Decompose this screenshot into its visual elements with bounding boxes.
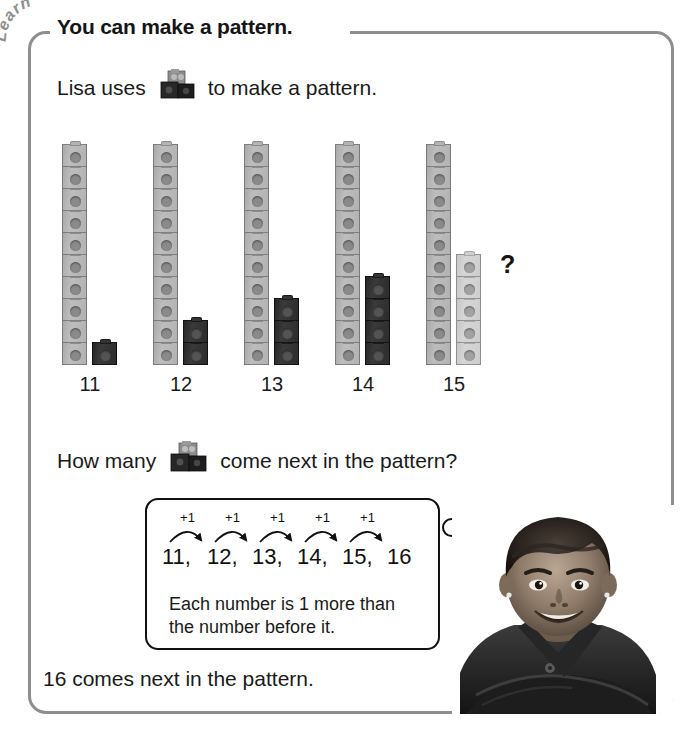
cube-gray xyxy=(244,188,269,211)
cube-gray xyxy=(335,166,360,189)
tower-ones-stack xyxy=(92,342,117,364)
tower-tens-stack xyxy=(244,144,269,364)
cube-gray xyxy=(62,166,87,189)
cube-gray xyxy=(62,144,87,167)
number-sequence-diagram: +1+1+1+1+1 11,12,13,14,15,16 xyxy=(160,507,420,569)
cube-gray xyxy=(62,254,87,277)
tower-tens-stack xyxy=(335,144,360,364)
cube-gray xyxy=(62,342,87,365)
cube-gray xyxy=(153,298,178,321)
cube-light xyxy=(456,298,481,321)
cube-gray xyxy=(153,144,178,167)
cube-gray xyxy=(244,342,269,365)
cube-gray xyxy=(335,188,360,211)
cube-gray xyxy=(244,144,269,167)
cube-gray xyxy=(426,342,451,365)
cube-gray xyxy=(335,276,360,299)
howmany-text-before: How many xyxy=(57,449,156,473)
tower-ones-stack xyxy=(183,320,208,364)
cube-dark xyxy=(365,342,390,365)
tower-label: 13 xyxy=(244,373,300,396)
closing-sentence: 16 comes next in the pattern. xyxy=(43,667,314,691)
intro-text-after: to make a pattern. xyxy=(208,76,377,100)
cube-tower xyxy=(62,144,117,364)
cube-gray xyxy=(335,254,360,277)
cube-gray xyxy=(62,232,87,255)
snap-cubes-icon xyxy=(155,69,199,106)
cube-gray xyxy=(62,320,87,343)
cube-gray xyxy=(153,232,178,255)
intro-sentence: Lisa uses to make a pattern. xyxy=(57,69,377,106)
plus-one-label: +1 xyxy=(225,510,240,525)
cube-tower xyxy=(426,144,481,364)
cube-gray xyxy=(426,320,451,343)
cube-gray xyxy=(244,320,269,343)
cube-gray xyxy=(426,232,451,255)
learn-tab-label: Learn xyxy=(0,0,34,42)
cube-gray xyxy=(153,254,178,277)
tower-ones-stack xyxy=(456,254,481,364)
cube-tower xyxy=(244,144,299,364)
tower-label: 12 xyxy=(153,373,209,396)
cube-light xyxy=(456,342,481,365)
sequence-number: 12, xyxy=(207,544,238,569)
plus-one-label: +1 xyxy=(315,510,330,525)
plus-one-arrow xyxy=(350,532,381,542)
cube-dark xyxy=(274,320,299,343)
tower-tens-stack xyxy=(426,144,451,364)
cube-gray xyxy=(62,210,87,233)
cube-gray xyxy=(153,188,178,211)
cube-gray xyxy=(62,298,87,321)
cube-dark xyxy=(274,298,299,321)
cube-gray xyxy=(153,276,178,299)
cube-gray xyxy=(426,254,451,277)
cube-gray xyxy=(244,276,269,299)
intro-text-before: Lisa uses xyxy=(57,76,146,100)
cube-gray xyxy=(335,144,360,167)
cube-gray xyxy=(244,232,269,255)
tower-label: 15 xyxy=(426,373,482,396)
tower-ones-stack xyxy=(274,298,299,364)
cube-dark xyxy=(274,342,299,365)
cube-gray xyxy=(153,342,178,365)
how-many-question: How many come next in the pattern? xyxy=(57,441,457,480)
sequence-number: 11, xyxy=(162,544,191,569)
cube-gray xyxy=(244,166,269,189)
tower-tens-stack xyxy=(153,144,178,364)
cube-gray xyxy=(426,188,451,211)
plus-one-label: +1 xyxy=(180,510,195,525)
cube-gray xyxy=(335,320,360,343)
plus-one-label: +1 xyxy=(360,510,375,525)
plus-one-label: +1 xyxy=(270,510,285,525)
student-photo xyxy=(452,505,674,714)
box-explanation-line-2: the number before it. xyxy=(169,616,395,639)
cube-dark xyxy=(365,298,390,321)
cube-light xyxy=(456,276,481,299)
cube-gray xyxy=(335,342,360,365)
cube-tower-row: 1112131415 xyxy=(62,116,532,396)
cube-gray xyxy=(426,298,451,321)
cube-gray xyxy=(153,320,178,343)
cube-dark xyxy=(365,276,390,299)
cube-light xyxy=(456,254,481,277)
snap-cubes-icon xyxy=(165,441,211,480)
tower-label: 11 xyxy=(62,373,118,396)
cube-gray xyxy=(153,210,178,233)
cube-gray xyxy=(426,210,451,233)
cube-gray xyxy=(335,232,360,255)
sequence-number: 15, xyxy=(342,544,373,569)
cube-dark xyxy=(183,342,208,365)
plus-one-arrow xyxy=(260,532,291,542)
box-explanation-line-1: Each number is 1 more than xyxy=(169,593,395,616)
cube-gray xyxy=(153,166,178,189)
box-explanation: Each number is 1 more than the number be… xyxy=(169,593,395,639)
cube-gray xyxy=(244,210,269,233)
next-term-question-mark: ? xyxy=(500,250,515,279)
cube-dark xyxy=(365,320,390,343)
sequence-number: 16 xyxy=(387,544,411,569)
cube-gray xyxy=(244,254,269,277)
sequence-number: 14, xyxy=(297,544,328,569)
plus-one-arrow xyxy=(215,532,246,542)
howmany-text-after: come next in the pattern? xyxy=(220,449,457,473)
tower-tens-stack xyxy=(62,144,87,364)
